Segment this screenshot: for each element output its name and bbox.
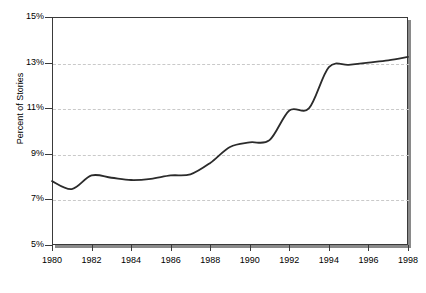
x-tick-label-1982: 1982	[72, 256, 112, 265]
y-tick-13	[45, 63, 52, 64]
y-tick-5	[45, 245, 52, 246]
gridline-9	[53, 155, 409, 156]
y-tick-15	[45, 17, 52, 18]
x-tick-1990	[250, 245, 251, 251]
x-tick-1980	[52, 245, 53, 251]
x-tick-1992	[289, 245, 290, 251]
x-tick-1984	[131, 245, 132, 251]
plot-area	[52, 17, 408, 245]
x-tick-1986	[171, 245, 172, 251]
x-tick-label-1998: 1998	[388, 256, 426, 265]
y-tick-11	[45, 108, 52, 109]
x-tick-label-1996: 1996	[348, 256, 388, 265]
figure-caption	[6, 285, 420, 293]
x-tick-label-1992: 1992	[269, 256, 309, 265]
gridline-13	[53, 64, 409, 65]
chart-figure: 15%13%11%9%7%5% 198019821984198619881990…	[0, 0, 426, 293]
gridline-11	[53, 109, 409, 110]
x-tick-label-1984: 1984	[111, 256, 151, 265]
y-tick-label-5: 5%	[4, 240, 44, 249]
x-tick-1994	[329, 245, 330, 251]
x-tick-1996	[368, 245, 369, 251]
x-tick-1988	[210, 245, 211, 251]
x-tick-1998	[408, 245, 409, 251]
x-tick-label-1980: 1980	[32, 256, 72, 265]
x-tick-label-1994: 1994	[309, 256, 349, 265]
y-tick-9	[45, 154, 52, 155]
x-tick-label-1988: 1988	[190, 256, 230, 265]
x-tick-label-1986: 1986	[151, 256, 191, 265]
y-tick-7	[45, 199, 52, 200]
y-tick-label-7: 7%	[4, 194, 44, 203]
x-tick-label-1990: 1990	[230, 256, 270, 265]
y-tick-label-15: 15%	[4, 12, 44, 21]
y-axis-title: Percent of Stories	[16, 54, 25, 164]
gridline-7	[53, 200, 409, 201]
x-tick-1982	[92, 245, 93, 251]
